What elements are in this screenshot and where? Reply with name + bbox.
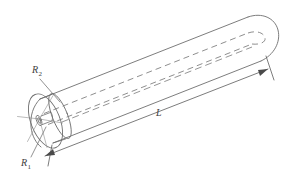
label-r2: R2	[31, 64, 43, 78]
label-r2-subscript: 2	[39, 70, 43, 78]
bore-stub-bottom-edge	[42, 121, 52, 125]
label-length: L	[155, 107, 162, 118]
hidden-bore-top	[44, 33, 248, 114]
length-arrow-right	[258, 69, 268, 76]
inner-face-top-edge	[40, 95, 52, 100]
inner-face-bottom-edge	[53, 139, 66, 143]
bore-hole-group	[35, 112, 53, 126]
radial-line-down-left	[28, 119, 40, 142]
figure-container: R2 R1 L	[0, 0, 290, 184]
outer-bottom-edge	[53, 61, 261, 143]
inner-bore-left-face	[40, 91, 76, 143]
label-r2-symbol: R	[31, 64, 38, 75]
r2-leader-line	[40, 79, 60, 102]
radial-line-up	[40, 96, 54, 119]
outer-left-ellipse	[22, 89, 70, 153]
hidden-bore-end-cap	[248, 32, 265, 44]
label-r1: R1	[20, 157, 32, 171]
r1-leader-line	[31, 127, 46, 157]
outer-right-cap	[248, 15, 279, 61]
cylinder-diagram: R2 R1 L	[0, 0, 290, 184]
radial-line-right	[40, 119, 63, 123]
length-extension-right	[266, 56, 274, 80]
label-r1-symbol: R	[20, 157, 27, 168]
inner-face-ellipse	[44, 91, 76, 141]
label-r1-subscript: 1	[28, 163, 32, 171]
hidden-bore-lines	[44, 32, 265, 125]
length-arrow-left	[45, 149, 55, 156]
